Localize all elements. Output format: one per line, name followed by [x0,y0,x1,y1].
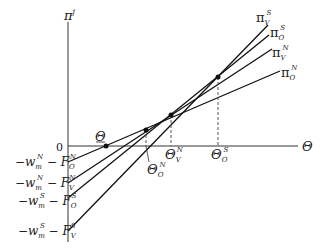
label-theta-V-N: ΘVN [165,146,184,164]
x-axis-label: Θ [302,139,313,154]
profit-threshold-diagram: πj Θ 0 πVS πOS πVN πON Θ ΘON ΘVN ΘOS −wm… [0,0,326,251]
label-pi-O-S: πOS [270,24,285,42]
dot-theta-O-S [216,75,221,80]
dot-theta-underbar [104,144,109,149]
y-axis-label: πj [63,7,76,23]
intercept-V-S: −wmS − FVS [18,222,77,240]
line-pi-V-S [68,25,268,231]
dot-theta-O-N [144,128,149,133]
intercept-O-S: −wmS − FOS [18,192,77,210]
dot-theta-V-N [169,113,174,118]
line-pi-O-S [68,35,269,198]
origin-label: 0 [56,141,63,154]
intercept-V-N: −wmN − FVN [15,174,76,192]
label-theta-O-N: ΘON [147,161,166,179]
label-theta-O-S: ΘOS [211,146,228,164]
label-pi-V-N: πVN [272,44,290,62]
label-pi-O-N: πON [281,64,298,82]
intercept-O-N: −wmN − FON [15,153,77,171]
